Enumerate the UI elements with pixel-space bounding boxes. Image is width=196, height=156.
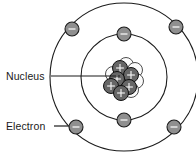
outer-electron-bottom-right[interactable] bbox=[167, 120, 181, 134]
inner-electron-bottom[interactable] bbox=[117, 113, 131, 127]
outer-electron-top-right[interactable] bbox=[169, 20, 183, 34]
proton-6 bbox=[114, 86, 129, 101]
electron-label: Electron bbox=[6, 120, 45, 132]
nucleus-label: Nucleus bbox=[6, 70, 45, 82]
nucleus-cluster bbox=[104, 58, 144, 101]
atom-diagram-canvas: Nucleus Electron bbox=[0, 0, 196, 156]
bohr-atom-diagram: Nucleus Electron bbox=[0, 0, 196, 156]
inner-electron-top[interactable] bbox=[117, 27, 131, 41]
outer-electron-top-left[interactable] bbox=[65, 22, 79, 36]
outer-electron-bottom-left[interactable] bbox=[69, 120, 83, 134]
